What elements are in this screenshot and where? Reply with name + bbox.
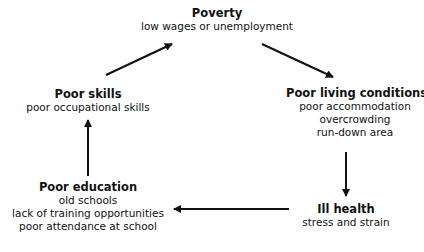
node-living-conditions: Poor living conditions poor accommodatio… (286, 86, 424, 139)
node-poor-education: Poor education old schools lack of train… (8, 180, 168, 233)
arrow-poverty-to-living (262, 44, 333, 77)
node-line: lack of training opportunities (8, 207, 168, 220)
node-poverty: Poverty low wages or unemployment (137, 6, 297, 33)
arrow-skills-to-poverty (106, 44, 172, 75)
node-line: stress and strain (296, 216, 396, 229)
node-title: Poor living conditions (286, 86, 424, 100)
node-title: Poverty (137, 6, 297, 20)
node-line: run-down area (286, 126, 424, 139)
node-line: poor attendance at school (8, 220, 168, 233)
node-ill-health: Ill health stress and strain (296, 202, 396, 229)
node-line: old schools (8, 194, 168, 207)
node-title: Poor education (8, 180, 168, 194)
node-line: low wages or unemployment (137, 20, 297, 33)
node-line: poor occupational skills (20, 101, 156, 114)
node-line: overcrowding (286, 113, 424, 126)
node-line: poor accommodation (286, 100, 424, 113)
node-poor-skills: Poor skills poor occupational skills (20, 87, 156, 114)
node-title: Ill health (296, 202, 396, 216)
node-title: Poor skills (20, 87, 156, 101)
